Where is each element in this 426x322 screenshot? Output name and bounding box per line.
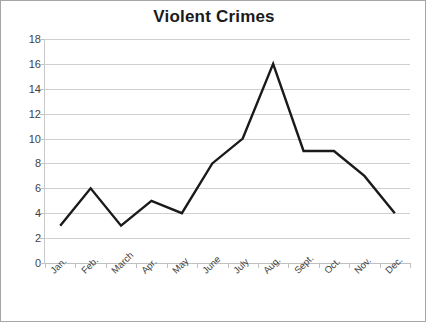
- x-tick-mark: [319, 263, 320, 268]
- y-tick-label: 16: [5, 58, 41, 70]
- y-tick-mark: [40, 39, 44, 40]
- gridline-y-14: [45, 89, 410, 90]
- chart-container: Violent Crimes 181614121086420 Jan.Feb.M…: [0, 0, 426, 322]
- gridline-y-4: [45, 213, 410, 214]
- gridline-y-10: [45, 139, 410, 140]
- y-tick-mark: [40, 213, 44, 214]
- x-tick-mark: [228, 263, 229, 268]
- x-tick-mark: [288, 263, 289, 268]
- x-tick-mark: [45, 263, 46, 268]
- y-tick-mark: [40, 238, 44, 239]
- y-tick-label: 2: [5, 232, 41, 244]
- y-axis-tick-labels: 181614121086420: [1, 1, 41, 322]
- x-tick-mark: [106, 263, 107, 268]
- chart-title: Violent Crimes: [1, 7, 426, 27]
- y-tick-label: 18: [5, 33, 41, 45]
- x-tick-mark: [75, 263, 76, 268]
- y-tick-mark: [40, 263, 44, 264]
- x-tick-mark: [167, 263, 168, 268]
- y-tick-mark: [40, 139, 44, 140]
- plot-area: [45, 39, 410, 263]
- y-tick-mark: [40, 188, 44, 189]
- x-tick-mark: [136, 263, 137, 268]
- x-tick-mark: [197, 263, 198, 268]
- y-tick-mark: [40, 114, 44, 115]
- gridline-y-18: [45, 39, 410, 40]
- y-tick-mark: [40, 89, 44, 90]
- gridline-y-8: [45, 163, 410, 164]
- x-tick-mark: [410, 263, 411, 268]
- y-tick-label: 0: [5, 257, 41, 269]
- y-tick-mark: [40, 64, 44, 65]
- gridline-y-6: [45, 188, 410, 189]
- y-tick-mark: [40, 163, 44, 164]
- gridline-y-12: [45, 114, 410, 115]
- y-tick-label: 10: [5, 133, 41, 145]
- x-tick-mark: [380, 263, 381, 268]
- y-tick-label: 4: [5, 207, 41, 219]
- x-tick-mark: [258, 263, 259, 268]
- y-tick-label: 8: [5, 157, 41, 169]
- y-tick-label: 14: [5, 83, 41, 95]
- y-tick-label: 12: [5, 108, 41, 120]
- gridline-y-2: [45, 238, 410, 239]
- gridline-y-16: [45, 64, 410, 65]
- x-tick-mark: [349, 263, 350, 268]
- y-tick-label: 6: [5, 182, 41, 194]
